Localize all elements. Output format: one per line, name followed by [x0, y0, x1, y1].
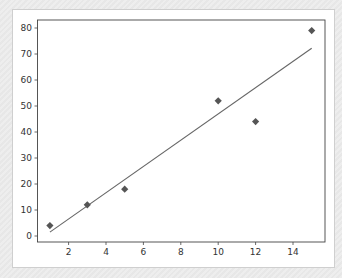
- y-tick-label: 10: [21, 205, 33, 215]
- y-tick-label: 30: [21, 153, 33, 163]
- y-tick-label: 20: [21, 179, 33, 189]
- x-tick-label: 10: [212, 247, 224, 257]
- x-tick-label: 12: [250, 247, 261, 257]
- x-tick-label: 4: [103, 247, 109, 257]
- y-tick-label: 40: [21, 127, 33, 137]
- y-tick-label: 80: [21, 23, 33, 33]
- y-axis: 01020304050607080: [21, 23, 38, 241]
- y-tick-label: 60: [21, 75, 33, 85]
- x-tick-label: 14: [287, 247, 299, 257]
- x-tick-label: 6: [141, 247, 147, 257]
- y-tick-label: 70: [21, 49, 33, 59]
- y-tick-label: 50: [21, 101, 33, 111]
- scatter-chart: 01020304050607080 2468101214: [0, 0, 342, 278]
- x-tick-label: 8: [178, 247, 184, 257]
- y-tick-label: 0: [26, 231, 32, 241]
- plot-area: [38, 20, 326, 242]
- x-axis: 2468101214: [66, 242, 299, 257]
- x-tick-label: 2: [66, 247, 72, 257]
